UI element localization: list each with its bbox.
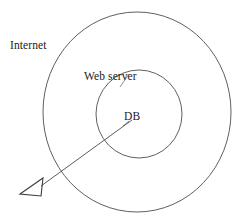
- zone-label-db: DB: [124, 111, 140, 123]
- diagram-canvas: Internet Web server DB: [0, 0, 252, 220]
- zone-label-internet: Internet: [10, 40, 47, 52]
- arrow-head-icon: [20, 178, 43, 196]
- zone-label-web-server: Web server: [84, 71, 137, 83]
